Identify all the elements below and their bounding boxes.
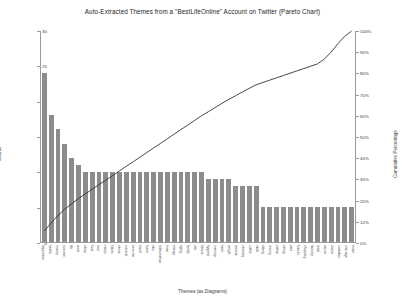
- x-tick: success: [61, 245, 68, 287]
- secondary-y-tick-label: 10%: [360, 219, 369, 224]
- x-tick: mistakes: [336, 245, 343, 287]
- secondary-y-tick-label: 60%: [360, 113, 369, 118]
- x-tick: home: [143, 245, 150, 287]
- x-tick-label: marriage: [344, 245, 348, 258]
- x-tick: health: [47, 245, 54, 287]
- x-tick-label: mistakes: [337, 245, 341, 258]
- x-tick-label: pets: [289, 245, 293, 251]
- secondary-y-tick-label: 50%: [360, 135, 369, 140]
- x-tick: safety: [274, 245, 281, 287]
- secondary-y-tick-label: 80%: [360, 71, 369, 76]
- x-tick-label: relationships: [158, 245, 162, 263]
- x-tick: driving: [267, 245, 274, 287]
- x-tick: memory: [212, 245, 219, 287]
- x-tick: life: [68, 245, 75, 287]
- secondary-y-tick-mark: [356, 179, 359, 180]
- x-tick-label: memory: [213, 245, 217, 257]
- x-tick: airport: [322, 245, 329, 287]
- secondary-y-tick-mark: [356, 158, 359, 159]
- secondary-y-tick-mark: [356, 52, 359, 53]
- x-tick: brain: [164, 245, 171, 287]
- x-tick: exercise: [129, 245, 136, 287]
- x-tick: coffee: [246, 245, 253, 287]
- x-tick-label: skin: [151, 245, 155, 251]
- plot-area: [40, 31, 356, 243]
- x-tick: retail: [315, 245, 322, 287]
- x-tick: dating: [260, 245, 267, 287]
- x-tick-label: airport: [323, 245, 327, 254]
- x-tick-label: money: [55, 245, 59, 255]
- secondary-y-tick-label: 90%: [360, 50, 369, 55]
- x-tick-label: aging: [179, 245, 183, 253]
- x-tick-label: weight: [227, 245, 231, 254]
- x-tick-label: life: [69, 245, 73, 249]
- x-tick-label: laundry: [310, 245, 314, 256]
- secondary-y-tick-label: 30%: [360, 177, 369, 182]
- x-tick-label: cleaning: [241, 245, 245, 257]
- x-tick: friends: [294, 245, 301, 287]
- secondary-y-tick-mark: [356, 116, 359, 117]
- x-tick-label: mindset: [124, 245, 128, 256]
- x-tick: marriage: [343, 245, 350, 287]
- x-tick-label: hygiene: [206, 245, 210, 256]
- secondary-y-tick-label: 20%: [360, 198, 369, 203]
- x-tick-label: stress: [117, 245, 121, 254]
- x-tick-label: travel: [138, 245, 142, 253]
- x-tick-label: habits: [110, 245, 114, 254]
- x-tick-label: anxiety: [234, 245, 238, 255]
- x-tick: mindset: [123, 245, 130, 287]
- x-tick-label: driving: [268, 245, 272, 255]
- x-tick-label: love: [96, 245, 100, 251]
- x-tick-label: coffee: [248, 245, 252, 254]
- x-tick: hygiene: [205, 245, 212, 287]
- x-tick: stress: [116, 245, 123, 287]
- x-tick-label: sleep: [83, 245, 87, 253]
- secondary-y-axis-label: Cumulative Percentage: [393, 130, 398, 178]
- x-tick-label: family: [186, 245, 190, 254]
- secondary-y-tick-label: 0%: [360, 241, 366, 246]
- cumulative-percentage-line: [41, 31, 355, 242]
- x-tick: happiness: [40, 245, 47, 287]
- x-tick: anxiety: [233, 245, 240, 287]
- x-tick: relationships: [157, 245, 164, 287]
- x-tick: food: [88, 245, 95, 287]
- x-tick: heart: [219, 245, 226, 287]
- x-tick-label: email: [351, 245, 355, 253]
- x-tick-label: fitness: [200, 245, 204, 254]
- x-tick: travel: [136, 245, 143, 287]
- x-tick-label: success: [62, 245, 66, 257]
- secondary-y-tick-mark: [356, 31, 359, 32]
- x-tick-label: safety: [275, 245, 279, 254]
- x-tick: habits: [109, 245, 116, 287]
- secondary-y-tick-label: 70%: [360, 92, 369, 97]
- x-tick: skills: [253, 245, 260, 287]
- secondary-y-tick-label: 100%: [360, 29, 371, 34]
- x-tick-label: skills: [255, 245, 259, 252]
- x-tick: career: [102, 245, 109, 287]
- x-tick: family: [184, 245, 191, 287]
- x-tick: pets: [288, 245, 295, 287]
- secondary-y-tick-mark: [356, 95, 359, 96]
- secondary-y-tick-label: 40%: [360, 156, 369, 161]
- x-tick: energy: [171, 245, 178, 287]
- x-tick-label: work: [76, 245, 80, 252]
- x-tick-label: brain: [165, 245, 169, 252]
- x-tick: diet: [191, 245, 198, 287]
- x-tick-label: health: [48, 245, 52, 254]
- x-tick: skin: [150, 245, 157, 287]
- x-tick: laundry: [308, 245, 315, 287]
- x-tick: email: [349, 245, 356, 287]
- x-tick: money: [54, 245, 61, 287]
- x-tick-label: retail: [316, 245, 320, 252]
- x-tick-label: shopping: [303, 245, 307, 258]
- x-tick-label: exercise: [131, 245, 135, 257]
- x-tick-label: doctor: [330, 245, 334, 254]
- x-tick: sleep: [81, 245, 88, 287]
- secondary-y-tick-mark: [356, 222, 359, 223]
- x-tick: aging: [178, 245, 185, 287]
- y-tick-mark: [37, 243, 40, 244]
- x-tick: fitness: [198, 245, 205, 287]
- x-tick-label: career: [103, 245, 107, 254]
- x-tick-label: home: [145, 245, 149, 253]
- x-axis-category-labels: happinesshealthmoneysuccesslifeworksleep…: [40, 245, 356, 287]
